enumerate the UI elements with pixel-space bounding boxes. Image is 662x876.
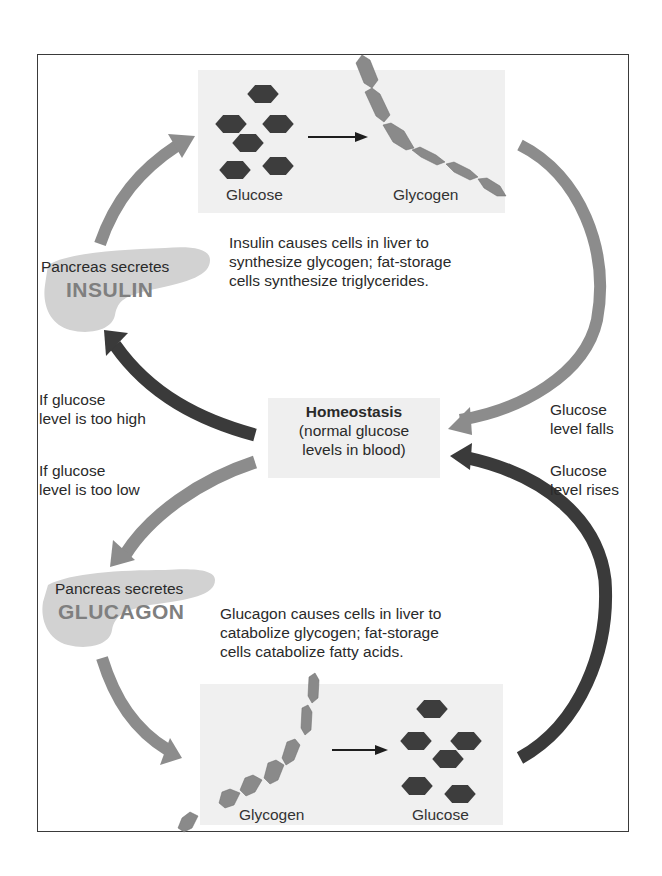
arrow-insulin-to-glycogen [100, 145, 178, 244]
too-high-label: If glucose level is too high [39, 390, 146, 428]
insulin-effect-text: Insulin causes cells in liver to synthes… [229, 233, 451, 290]
arrow-glucose-rises [468, 458, 606, 758]
bottom-glycogen-label: Glycogen [239, 806, 304, 824]
homeostasis-line1: (normal glucose [268, 421, 440, 440]
bottom-glucose-label: Glucose [412, 806, 469, 824]
insulin-hormone-label: INSULIN [66, 278, 154, 302]
arrow-glucose-falls [460, 145, 600, 420]
pancreas-glucagon-label: Pancreas secretes [55, 580, 183, 598]
top-glycogen-label: Glycogen [393, 186, 458, 204]
glucose-rises-label: Glucose level rises [550, 461, 619, 499]
glucose-falls-label: Glucose level falls [550, 400, 614, 438]
arrow-glucagon-to-glucose [102, 658, 168, 750]
homeostasis-title: Homeostasis [268, 402, 440, 421]
top-glucose-hexagons [215, 85, 294, 179]
pancreas-insulin-label: Pancreas secretes [41, 258, 169, 276]
arrow-too-low [125, 462, 255, 555]
homeostasis-box: Homeostasis (normal glucose levels in bl… [268, 398, 440, 478]
homeostasis-line2: levels in blood) [268, 440, 440, 459]
too-low-label: If glucose level is too low [39, 461, 140, 499]
top-glycogen-chain [356, 55, 506, 196]
top-glucose-label: Glucose [226, 186, 283, 204]
glucagon-hormone-label: GLUCAGON [58, 600, 185, 624]
glucagon-effect-text: Glucagon causes cells in liver to catabo… [220, 604, 441, 661]
bottom-glucose-hexagons [400, 700, 482, 803]
